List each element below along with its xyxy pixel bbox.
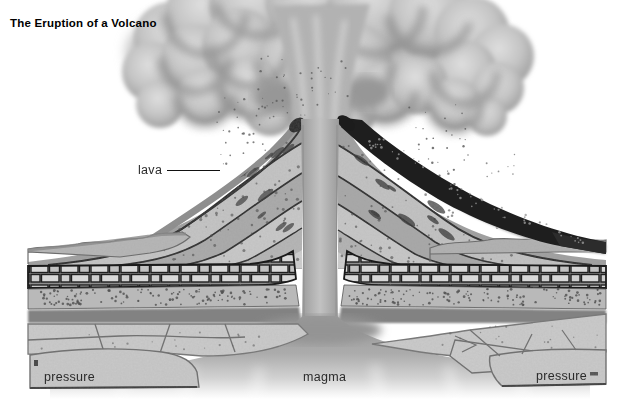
figure-title: The Eruption of a Volcano <box>10 17 157 29</box>
pressure-right-label: pressure <box>536 369 587 383</box>
volcano-illustration <box>0 0 621 399</box>
volcanic-conduit <box>301 119 339 324</box>
volcano-eruption-figure: The Eruption of a Volcano lava pressure … <box>0 0 621 399</box>
magma-label: magma <box>303 370 346 384</box>
lava-label: lava <box>138 163 162 177</box>
sand-stratum-right <box>341 285 606 309</box>
lava-pointer-line <box>167 170 220 171</box>
pressure-left-label: pressure <box>44 370 95 384</box>
sand-stratum-left <box>28 285 299 309</box>
